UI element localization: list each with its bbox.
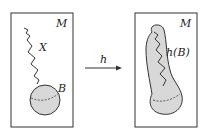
image-label: h(B) [166, 46, 190, 59]
ball-label: B [57, 82, 66, 95]
left-panel: M X B [11, 13, 73, 127]
right-manifold-label: M [179, 17, 192, 30]
zigzag-path-x [24, 28, 39, 84]
path-label: X [38, 41, 48, 54]
map-arrow: h [85, 53, 122, 71]
diagram: M X B h M h(B) [0, 0, 204, 138]
left-manifold-label: M [55, 17, 68, 30]
map-label: h [100, 53, 107, 66]
right-panel: M h(B) [135, 13, 197, 127]
